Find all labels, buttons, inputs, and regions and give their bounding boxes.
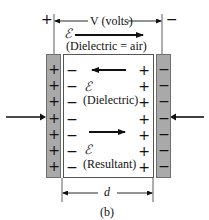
dielectric-charge-positive: + — [138, 144, 150, 158]
field-dielectric-label: (Dielectric) — [83, 94, 138, 107]
dielectric-charge-positive: + — [138, 128, 150, 142]
field-resultant-symbol: ℰ — [84, 143, 92, 156]
plate-charge: + — [48, 159, 60, 173]
plate-charge: + — [48, 111, 60, 125]
dielectric-charge-positive: + — [138, 95, 150, 109]
dielectric-charge-positive: + — [138, 112, 150, 126]
dielectric-charge-negative: − — [66, 128, 78, 142]
plate-charge: + — [48, 94, 60, 108]
figure-caption: (b) — [100, 206, 114, 219]
plate-charge: − — [158, 78, 170, 92]
field-dielectric-symbol: ℰ — [84, 80, 92, 93]
plate-charge: − — [158, 159, 170, 173]
distance-label: d — [104, 186, 110, 199]
plate-charge: − — [158, 127, 170, 141]
plate-charge: − — [158, 143, 170, 157]
plate-charge: + — [48, 78, 60, 92]
plate-charge: + — [48, 143, 60, 157]
voltage-minus-sign: − — [166, 13, 178, 26]
voltage-plus-sign: + — [41, 13, 53, 26]
dielectric-charge-negative: − — [66, 144, 78, 158]
right-plate: − − − − − − − — [156, 54, 171, 178]
plate-charge: − — [158, 94, 170, 108]
plate-charge: − — [158, 62, 170, 76]
field-air-label: (Dielectric = air) — [66, 40, 147, 53]
dielectric-charge-negative: − — [66, 79, 78, 93]
field-resultant-label: (Resultant) — [83, 158, 136, 171]
dielectric-charge-negative: − — [66, 112, 78, 126]
dielectric-charge-positive: + — [138, 160, 150, 174]
dielectric-charge-negative: − — [66, 160, 78, 174]
dielectric-charge-positive: + — [138, 63, 150, 77]
plate-charge: − — [158, 111, 170, 125]
dielectric-charge-positive: + — [138, 79, 150, 93]
left-plate: + + + + + + + — [46, 54, 61, 178]
voltage-label: V (volts) — [90, 15, 133, 28]
plate-charge: + — [48, 62, 60, 76]
dielectric-charge-negative: − — [66, 95, 78, 109]
plate-charge: + — [48, 127, 60, 141]
dielectric-charge-negative: − — [66, 63, 78, 77]
